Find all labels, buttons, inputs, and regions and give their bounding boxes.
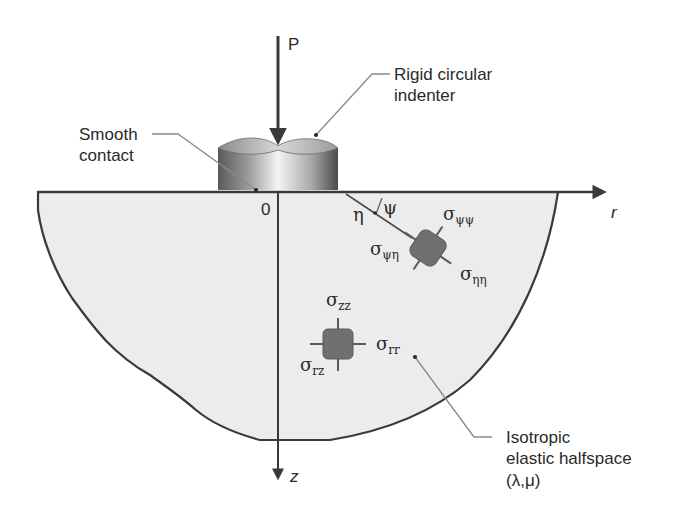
- psi-label: ψ: [383, 197, 397, 218]
- diagram-canvas: P Rigid circular indenter Smooth contact…: [0, 0, 689, 524]
- r-axis-label: r: [611, 203, 618, 222]
- indenter-label-line1: Rigid circular: [394, 65, 493, 84]
- halfspace-label-line1: Isotropic: [506, 428, 571, 447]
- origin-label: 0: [261, 200, 270, 219]
- load-label: P: [288, 35, 299, 54]
- contact-label-line2: contact: [79, 146, 134, 165]
- rigid-indenter: [218, 138, 338, 190]
- halfspace-label-line3: (λ,μ): [506, 471, 540, 490]
- rotated-frame-origin: [373, 211, 377, 215]
- indenter-side: [218, 148, 338, 190]
- z-axis-label: z: [289, 467, 299, 486]
- contact-label-line1: Smooth: [79, 125, 138, 144]
- elastic-halfspace-body: [38, 192, 558, 440]
- halfspace-label-line2: elastic halfspace: [506, 449, 632, 468]
- indenter-label-line2: indenter: [394, 86, 456, 105]
- eta-label: η: [353, 204, 364, 225]
- indentation-diagram: P Rigid circular indenter Smooth contact…: [0, 0, 689, 524]
- indenter-leader: [316, 74, 390, 135]
